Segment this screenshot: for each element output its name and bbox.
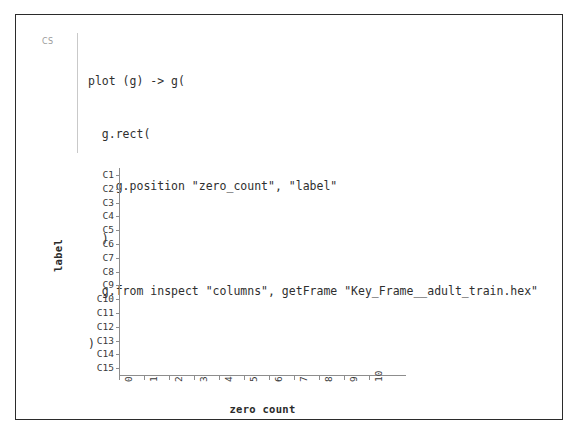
code-line-1: plot (g) -> g(	[88, 73, 558, 91]
bar-c10	[120, 292, 220, 306]
y-tick-c9	[116, 285, 119, 286]
x-tick-3	[194, 376, 195, 380]
screenshot-root: CS plot (g) -> g( g.rect( g.position "ze…	[0, 0, 579, 437]
y-tick-label-c1: C1	[103, 169, 114, 180]
y-tick-label-c4: C4	[103, 210, 114, 221]
x-tick-10	[369, 376, 370, 380]
x-tick-4	[219, 376, 220, 380]
y-tick-label-c8: C8	[103, 266, 114, 277]
y-tick-c12	[116, 327, 119, 328]
y-tick-c4	[116, 216, 119, 217]
x-tick-label-1: 1	[148, 376, 159, 382]
x-tick-label-5: 5	[248, 376, 259, 382]
bar-c12	[120, 320, 377, 334]
code-line-2: g.rect(	[88, 126, 558, 144]
x-tick-6	[269, 376, 270, 380]
y-tick-c6	[116, 244, 119, 245]
x-tick-label-2: 2	[173, 376, 184, 382]
y-tick-label-c13: C13	[97, 335, 114, 346]
code-gutter-divider	[77, 33, 78, 153]
y-tick-label-c3: C3	[103, 197, 114, 208]
y-tick-c5	[116, 230, 119, 231]
y-tick-label-c5: C5	[103, 224, 114, 235]
y-tick-label-c12: C12	[97, 321, 114, 332]
y-tick-c8	[116, 272, 119, 273]
bar-c8	[120, 265, 220, 279]
bar-c9	[120, 278, 195, 292]
x-tick-1	[144, 376, 145, 380]
x-tick-2	[169, 376, 170, 380]
y-tick-c11	[116, 313, 119, 314]
y-axis-title: label	[52, 239, 64, 272]
x-tick-7	[294, 376, 295, 380]
y-tick-c7	[116, 258, 119, 259]
y-tick-c10	[116, 299, 119, 300]
cell-type-label: CS	[42, 37, 54, 46]
bar-c4	[120, 209, 145, 223]
y-tick-label-c2: C2	[103, 183, 114, 194]
y-tick-c15	[116, 368, 119, 369]
x-tick-label-4: 4	[223, 376, 234, 382]
y-tick-label-c15: C15	[97, 362, 114, 373]
x-tick-label-3: 3	[198, 376, 209, 382]
x-axis-title: zero count	[119, 403, 406, 415]
x-tick-label-10: 10	[373, 371, 384, 382]
bar-c15	[120, 361, 302, 375]
y-tick-label-c6: C6	[103, 238, 114, 249]
y-tick-label-c7: C7	[103, 252, 114, 263]
x-tick-label-8: 8	[323, 376, 334, 382]
y-tick-c13	[116, 341, 119, 342]
y-tick-label-c9: C9	[103, 279, 114, 290]
x-tick-label-0: 0	[123, 376, 134, 382]
y-tick-c2	[116, 189, 119, 190]
x-tick-label-6: 6	[273, 376, 284, 382]
y-tick-c3	[116, 203, 119, 204]
bar-c11	[120, 306, 302, 320]
x-tick-8	[319, 376, 320, 380]
x-axis-spine	[119, 375, 406, 376]
bar-c6	[120, 237, 145, 251]
y-tick-label-c11: C11	[97, 307, 114, 318]
plot-axes: C1C2C3C4C5C6C7C8C9C10C11C12C13C14C150123…	[119, 168, 406, 375]
x-tick-9	[344, 376, 345, 380]
y-tick-c1	[116, 175, 119, 176]
y-tick-label-c14: C14	[97, 348, 114, 359]
bar-c14	[120, 347, 145, 361]
bar-c2	[120, 182, 302, 196]
bar-c7	[120, 251, 145, 265]
y-tick-label-c10: C10	[97, 293, 114, 304]
x-tick-label-7: 7	[298, 376, 309, 382]
y-tick-c14	[116, 354, 119, 355]
x-tick-5	[244, 376, 245, 380]
bar-chart-output: label zero count C1C2C3C4C5C6C7C8C9C10C1…	[46, 157, 546, 417]
x-tick-label-9: 9	[348, 376, 359, 382]
x-tick-0	[119, 376, 120, 380]
notebook-cell-frame: CS plot (g) -> g( g.rect( g.position "ze…	[15, 14, 563, 420]
